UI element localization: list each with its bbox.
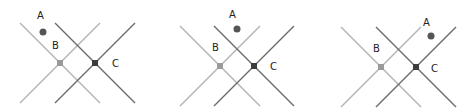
point-c-marker	[92, 60, 98, 66]
point-c-marker	[251, 63, 257, 69]
label-b: B	[212, 42, 219, 53]
panel-1: ABC	[20, 10, 135, 103]
panel-2: ABC	[180, 9, 294, 106]
label-c: C	[270, 61, 277, 72]
point-b-marker	[217, 63, 223, 69]
label-b: B	[373, 43, 380, 54]
point-c-marker	[413, 64, 419, 70]
label-a: A	[229, 9, 236, 20]
label-a: A	[37, 10, 44, 21]
point-b-marker	[57, 60, 63, 66]
label-b: B	[52, 40, 59, 51]
point-a-marker	[234, 26, 241, 33]
panel-3: ABC	[341, 17, 456, 107]
label-c: C	[112, 58, 119, 69]
point-b-marker	[378, 64, 384, 70]
label-a: A	[423, 17, 430, 28]
diagram-figure: ABC ABC ABC	[0, 0, 471, 112]
point-a-marker	[40, 29, 47, 36]
label-c: C	[431, 63, 438, 74]
point-a-marker	[428, 33, 435, 40]
